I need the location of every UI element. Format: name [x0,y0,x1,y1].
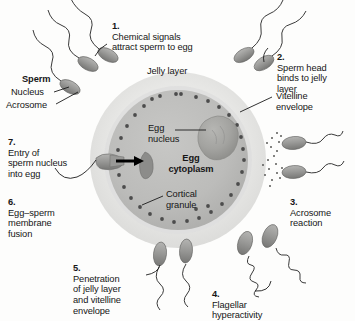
step-6-label: 6. Egg–sperm membrane fusion [8,186,90,240]
step-5-label: 5. Penetration of jelly layer and vitell… [73,252,155,317]
step-4-text: Flagellar hyperactivity [212,300,262,321]
acrosome-label: Acrosome [6,100,47,111]
step-4-label: 4. Flagellar hyperactivity [212,278,292,321]
step-7-text: Entry of sperm nucleus into egg [8,148,67,180]
nucleus-label: Nucleus [11,87,44,98]
step-6-number: 6. [8,197,16,207]
step-2-number: 2. [277,52,285,62]
sperm [281,131,343,151]
sperm-group-bottom [152,239,193,310]
step-3-text: Acrosome reaction [290,208,331,229]
step-7-number: 7. [8,137,16,147]
jelly-layer-label: Jelly layer [147,66,187,77]
step-5-text: Penetration of jelly layer and vitelline… [73,274,121,316]
step-2-text: Sperm head binds to jelly layer [277,63,327,95]
step-1-number: 1. [112,21,120,31]
step-5-number: 5. [73,263,81,273]
step-3-label: 3. Acrosome reaction [290,186,354,229]
step-2-label: 2. Sperm head binds to jelly layer [277,41,353,95]
cortical-granule-label: Cortical granule [166,189,224,211]
sperm [259,222,306,283]
step-7-label: 7. Entry of sperm nucleus into egg [8,126,92,180]
leader-acrosome [56,92,78,104]
step-6-text: Egg–sperm membrane fusion [8,208,55,240]
sperm [282,161,344,179]
sperm-label: Sperm [22,74,50,85]
step-1-label: 1. Chemical signals attract sperm to egg [112,10,240,53]
step-3-number: 3. [290,197,298,207]
fertilization-diagram: 1. Chemical signals attract sperm to egg… [0,0,355,321]
step-4-number: 4. [212,289,220,299]
egg-nucleus-label: Egg nucleus [148,123,192,145]
vitelline-envelope-label: Vitelline envelope [276,91,342,113]
sperm [179,239,194,307]
egg-cytoplasm-label: Egg cytoplasm [160,153,222,175]
step-1-text: Chemical signals attract sperm to egg [112,32,193,53]
sperm-group-right-acrosome [262,131,344,187]
